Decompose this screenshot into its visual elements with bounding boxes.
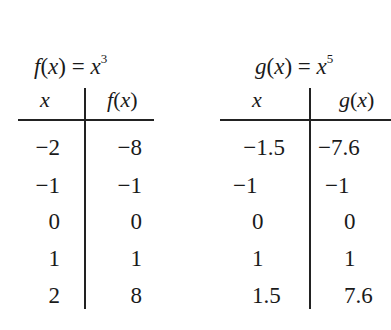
table-row: 1 bbox=[344, 246, 374, 272]
header-label: x bbox=[252, 87, 262, 112]
table-row: 1 bbox=[252, 246, 282, 272]
table-f-header-fx: f(x) bbox=[107, 87, 138, 113]
table-g-column-divider bbox=[309, 88, 311, 309]
table-row: 1 bbox=[18, 246, 60, 272]
table-row: −2 bbox=[18, 135, 60, 161]
table-row: 1 bbox=[100, 246, 142, 272]
exponent: 5 bbox=[327, 51, 334, 66]
table-row: −1 bbox=[100, 173, 142, 199]
table-f-column-divider bbox=[84, 88, 86, 309]
table-g-header-gx: g(x) bbox=[339, 87, 374, 113]
table-row: 7.6 bbox=[344, 283, 384, 309]
table-row: −1.5 bbox=[225, 135, 285, 161]
table-row: −1 bbox=[325, 173, 367, 199]
table-g-title: g(x) = x5 bbox=[255, 54, 333, 80]
table-row: −1 bbox=[233, 173, 275, 199]
table-row: 2 bbox=[18, 283, 60, 309]
func-name: f bbox=[34, 54, 40, 79]
exponent: 3 bbox=[101, 51, 108, 66]
table-row: −7.6 bbox=[318, 135, 378, 161]
table-row: 1.5 bbox=[252, 283, 292, 309]
table-row: 8 bbox=[100, 283, 142, 309]
table-f-header-rule bbox=[18, 119, 154, 121]
table-g-header-x: x bbox=[252, 87, 262, 113]
header-label: x bbox=[40, 87, 50, 112]
table-f-title: f(x) = x3 bbox=[34, 54, 107, 80]
table-row: 0 bbox=[344, 209, 374, 235]
table-f-header-x: x bbox=[40, 87, 50, 113]
table-row: 0 bbox=[18, 209, 60, 235]
func-name: g bbox=[255, 54, 267, 79]
table-row: −1 bbox=[18, 173, 60, 199]
table-row: 0 bbox=[100, 209, 142, 235]
table-g-header-rule bbox=[220, 119, 391, 121]
table-row: 0 bbox=[252, 209, 282, 235]
table-row: −8 bbox=[100, 135, 142, 161]
